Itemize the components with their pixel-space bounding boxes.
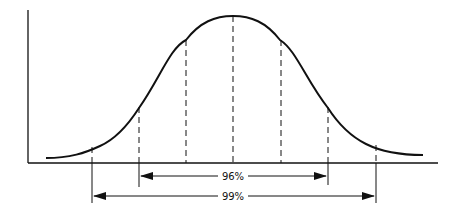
arrowhead-left-icon (93, 192, 106, 200)
interval-96-label: 96% (222, 171, 244, 182)
bell-curve (46, 16, 423, 158)
interval-99-label: 99% (222, 191, 244, 202)
arrowhead-right-icon (362, 192, 375, 200)
sigma-lines (92, 16, 376, 163)
interval-99-arrow: 99% (93, 191, 375, 202)
normal-distribution-diagram: 96% 99% (0, 0, 455, 216)
interval-96-arrow: 96% (140, 171, 327, 182)
arrowhead-left-icon (140, 172, 153, 180)
arrowhead-right-icon (314, 172, 327, 180)
